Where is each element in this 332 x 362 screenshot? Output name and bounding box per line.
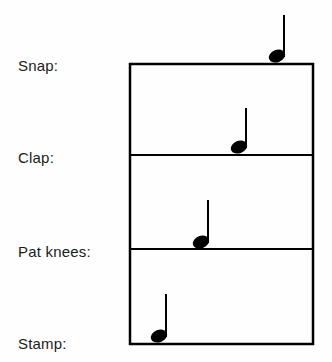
staff-divider-lines <box>130 155 313 249</box>
quarter-note-stamp <box>149 294 169 345</box>
rhythm-chart-figure: Snap: Clap: Pat knees: Stamp: <box>0 0 332 362</box>
quarter-note-snap <box>267 15 287 65</box>
quarter-note-pat-knees <box>191 200 211 251</box>
staff-graphic <box>0 0 332 362</box>
staff-box <box>130 64 313 344</box>
quarter-note-clap <box>229 108 249 156</box>
